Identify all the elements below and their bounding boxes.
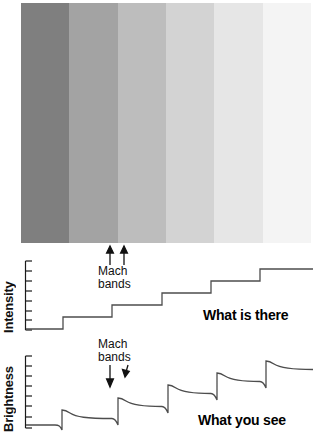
grayscale-staircase [21,3,311,243]
gray-band-6 [263,3,311,243]
caption-what-is-there: What is there [203,307,288,323]
brightness-axis-label: Brightness [2,352,15,432]
gray-band-3 [118,3,166,243]
mach-bands-label-bottom-line1: Mach [98,337,127,351]
mach-bands-arrows-up [107,246,128,265]
gray-band-1 [21,3,69,243]
caption-what-you-see: What you see [198,412,286,428]
mach-bands-label-bottom-line2: bands [98,350,131,364]
mach-bands-arrows-down [107,365,130,387]
intensity-y-axis [26,261,33,330]
intensity-plot-svg [0,243,315,338]
gray-band-2 [69,3,117,243]
gray-band-4 [166,3,214,243]
intensity-chart: Intensity Mach bands What is there [0,243,315,338]
brightness-chart: Brightness Mach bands What you see [0,338,315,437]
mach-bands-label-top-line2: bands [98,277,131,291]
mach-bands-label-top: Mach bands [98,265,131,291]
brightness-y-axis [26,356,33,428]
mach-bands-label-top-line1: Mach [98,264,127,278]
gray-band-5 [214,3,262,243]
intensity-axis-label: Intensity [2,257,15,333]
mach-bands-label-bottom: Mach bands [98,338,131,364]
